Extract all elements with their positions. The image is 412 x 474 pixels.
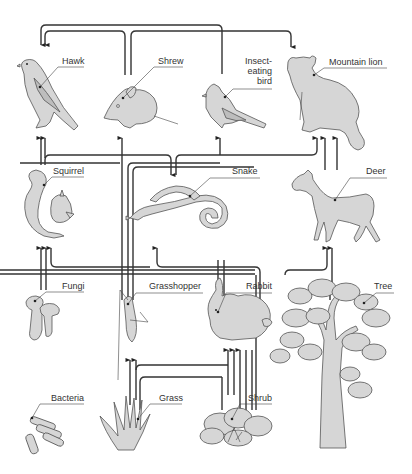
label-insect-eating-bird-line-3: bird: [244, 76, 272, 86]
label-fungi: Fungi: [62, 281, 85, 291]
tree-illustration: [270, 279, 390, 448]
label-grasshopper: Grasshopper: [149, 281, 201, 291]
label-bacteria: Bacteria: [51, 393, 84, 403]
squirrel-illustration: [25, 170, 74, 238]
insect-eating-bird-illustration: [202, 84, 266, 128]
label-shrub: Shrub: [248, 393, 272, 403]
arrow-grasshopper-to-bird: [128, 163, 220, 300]
deer-illustration: [292, 170, 380, 242]
hawk-illustration: [17, 60, 78, 131]
label-shrew: Shrew: [158, 56, 184, 66]
label-rabbit: Rabbit: [246, 281, 272, 291]
label-grass: Grass: [159, 393, 183, 403]
fungi-illustration: [26, 296, 59, 340]
grass-illustration: [100, 396, 150, 450]
shrub-illustration: [200, 408, 272, 446]
label-deer: Deer: [366, 166, 386, 176]
arrow-to-deer: [285, 248, 327, 275]
label-insect-eating-bird-line-1: Insect-: [244, 56, 272, 66]
label-snake: Snake: [232, 166, 258, 176]
label-squirrel: Squirrel: [53, 166, 84, 176]
label-hawk: Hawk: [62, 56, 85, 66]
grasshopper-illustration: [118, 290, 148, 380]
label-insect-eating-bird-line-2: eating: [244, 66, 272, 76]
label-tree: Tree: [374, 281, 392, 291]
bacteria-illustration: [25, 416, 65, 455]
mountain-lion-illustration: [287, 56, 364, 150]
label-mountain-lion: Mountain lion: [329, 57, 383, 67]
shrew-illustration: [104, 87, 178, 128]
line-tree-to-squirrel: [51, 262, 150, 267]
label-insect-eating-bird: Insect- eating bird: [244, 56, 272, 86]
snake-illustration: [126, 186, 228, 228]
